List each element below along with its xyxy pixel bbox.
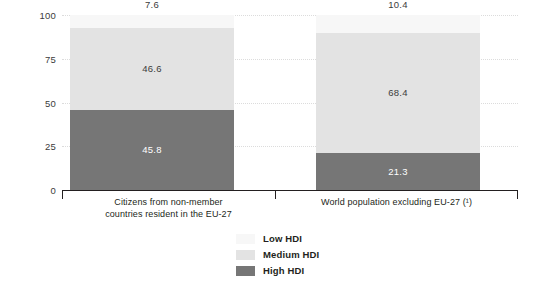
bar-segment-high-hdi-2: 21.3 [316, 153, 480, 190]
x-axis-category-label-1-line-1: Citizens from non-member [62, 197, 275, 209]
bar-value-label-low-hdi-1: 7.6 [70, 0, 234, 10]
legend-item-medium-hdi: Medium HDI [236, 247, 416, 262]
legend-swatch-high-hdi-icon [236, 266, 255, 276]
legend-item-low-hdi: Low HDI [236, 231, 416, 246]
bar-value-label-high-hdi-1: 45.8 [142, 145, 161, 155]
bar-stack-1: 46.6 45.8 [70, 15, 234, 190]
x-axis-category-label-2: World population excluding EU-27 (¹) [275, 197, 518, 209]
bar-stack-2: 68.4 21.3 [316, 15, 480, 190]
bar-segment-high-hdi-1: 45.8 [70, 110, 234, 190]
y-tick-label-50: 50 [4, 97, 56, 108]
legend-label-low-hdi: Low HDI [263, 233, 302, 244]
legend-label-high-hdi: High HDI [263, 265, 304, 276]
y-axis: 0 25 50 75 100 [0, 0, 56, 285]
legend-swatch-medium-hdi-icon [236, 250, 255, 260]
bar-value-label-medium-hdi-2: 68.4 [388, 88, 407, 98]
x-axis-category-label-1: Citizens from non-member countries resid… [62, 197, 275, 220]
bar-value-label-medium-hdi-1: 46.6 [142, 64, 161, 74]
x-axis-category-label-1-line-2: countries resident in the EU-27 [62, 209, 275, 221]
legend-swatch-low-hdi-icon [236, 234, 255, 244]
stacked-bar-chart: 0 25 50 75 100 7.6 46.6 45.8 [0, 0, 533, 285]
bar-value-label-high-hdi-2: 21.3 [388, 167, 407, 177]
legend-item-high-hdi: High HDI [236, 263, 416, 278]
bar-segment-low-hdi-2 [316, 15, 480, 33]
x-axis-line [62, 190, 518, 191]
bar-segment-medium-hdi-2: 68.4 [316, 33, 480, 153]
bar-segment-low-hdi-1 [70, 15, 234, 28]
bar-group-citizens-non-member: 7.6 46.6 45.8 [70, 15, 234, 190]
bar-value-label-low-hdi-2: 10.4 [316, 0, 480, 10]
x-axis-category-label-2-line-1: World population excluding EU-27 (¹) [275, 197, 518, 209]
y-tick-label-75: 75 [4, 53, 56, 64]
plot-area: 7.6 46.6 45.8 10.4 [62, 15, 518, 190]
y-tick-label-100: 100 [4, 10, 56, 21]
y-tick-label-0: 0 [4, 185, 56, 196]
legend-label-medium-hdi: Medium HDI [263, 249, 319, 260]
bar-segment-medium-hdi-1: 46.6 [70, 28, 234, 110]
bar-group-world-population: 10.4 68.4 21.3 [316, 15, 480, 190]
y-tick-label-25: 25 [4, 141, 56, 152]
chart-legend: Low HDI Medium HDI High HDI [236, 231, 416, 279]
